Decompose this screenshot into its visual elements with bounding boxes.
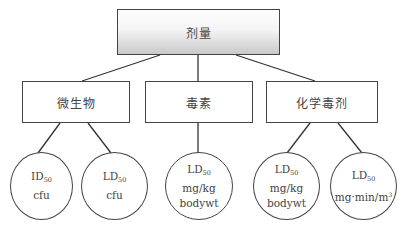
leaf-node-microbe-ld50: LD50 cfu [81,152,148,220]
leaf-node-chemical-ld50-inhalation: LD50 mg·min/m3 [330,152,397,220]
leaf-node-microbe-id50: ID50 cfu [10,152,73,220]
leaf-node-toxin-ld50: LD50 mg/kg bodywt [165,152,233,220]
connector-root-chemical [236,55,315,81]
metric-label: LD [187,163,202,175]
unit-superscript: 3 [388,191,392,198]
unit-label: mg/kg [270,181,303,196]
root-node-dose: 剂量 [117,9,280,55]
connector-chemical-ld50-inhal [338,123,362,153]
unit-label: mg·min/m [335,191,389,203]
category-label: 化学毒剂 [296,94,348,111]
metric-label: LD [352,169,367,181]
leaf-node-chemical-ld50-kg: LD50 mg/kg bodywt [253,152,320,220]
connector-microbe-ld50 [88,123,111,153]
category-node-chemical: 化学毒剂 [266,81,378,123]
metric-subscript: 50 [290,169,298,177]
category-node-microbe: 微生物 [22,81,130,123]
metric-subscript: 50 [44,176,52,184]
metric-subscript: 50 [203,169,211,177]
metric-label: LD [103,170,118,182]
unit-label: mg/kg [182,181,215,196]
basis-label: bodywt [267,196,306,211]
unit-label: cfu [33,188,50,203]
metric-subscript: 50 [118,176,126,184]
category-node-toxin: 毒素 [145,81,253,123]
metric-subscript: 50 [367,175,375,183]
connector-chemical-ld50-kg [287,123,310,153]
metric-label: LD [275,163,290,175]
root-label: 剂量 [186,24,212,41]
basis-label: bodywt [180,196,219,211]
category-label: 微生物 [57,94,96,111]
unit-label: cfu [106,188,123,203]
category-label: 毒素 [186,94,212,111]
metric-label: ID [31,170,44,182]
connector-root-microbe [82,55,160,81]
connector-microbe-id50 [38,123,60,153]
